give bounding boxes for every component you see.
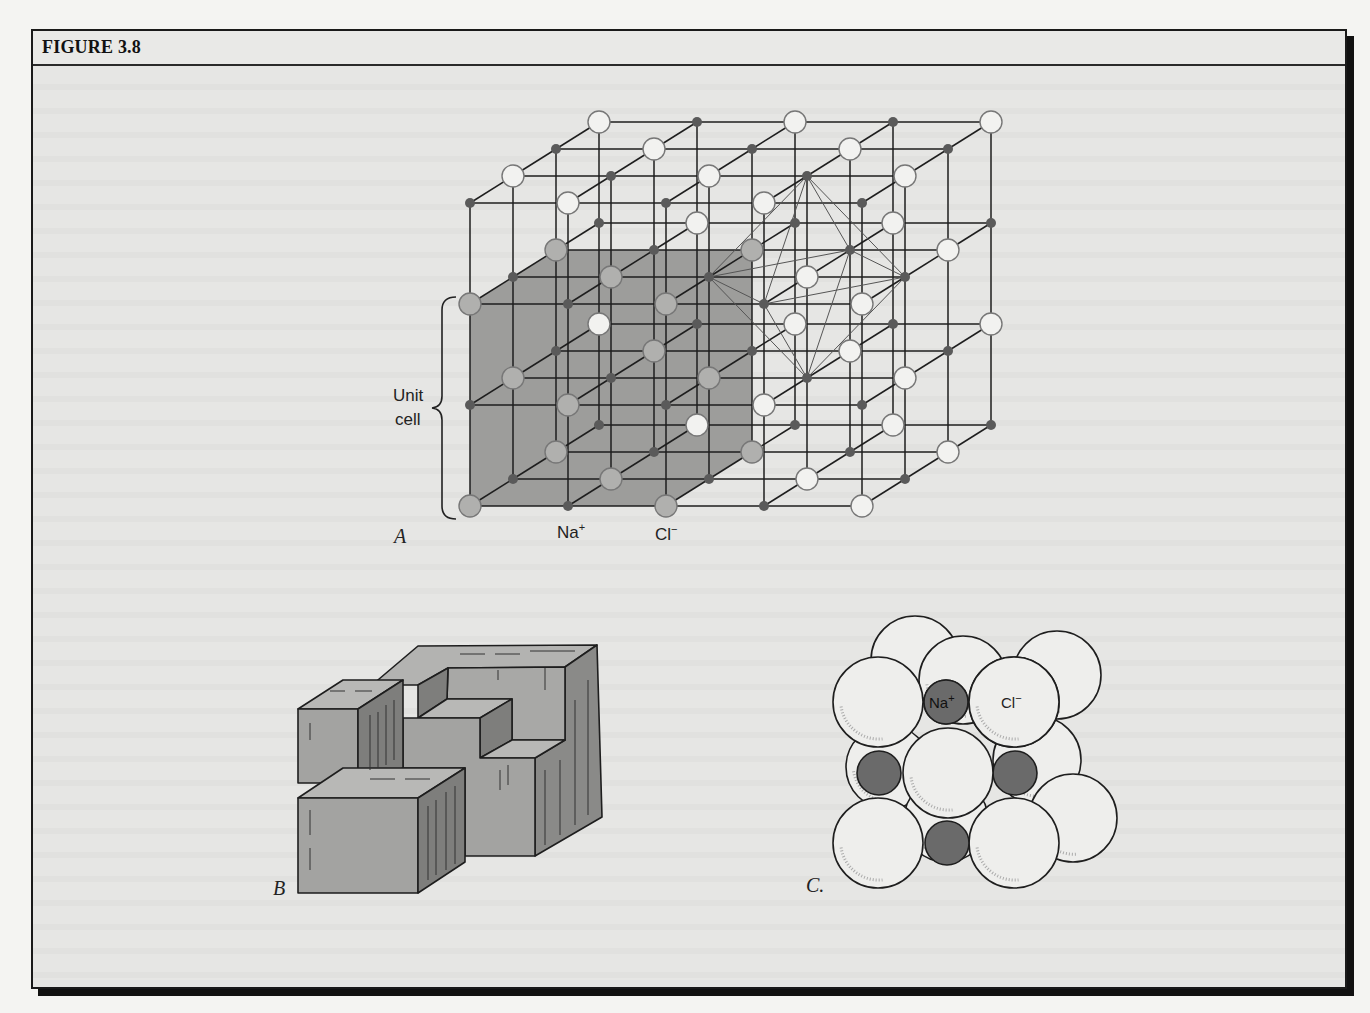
cl-ion <box>698 165 720 187</box>
na-ion <box>606 171 616 181</box>
na-ion <box>986 218 996 228</box>
cl-ion <box>839 340 861 362</box>
cl-ion <box>600 266 622 288</box>
panel-b-letter: B <box>273 877 285 900</box>
na-ion <box>900 474 910 484</box>
cl-ion <box>851 495 873 517</box>
na-ion <box>986 420 996 430</box>
na-ion <box>759 501 769 511</box>
na-ion <box>563 299 573 309</box>
na-ion <box>845 245 855 255</box>
na-ion <box>802 171 812 181</box>
na-ion <box>857 400 867 410</box>
na-ion <box>857 198 867 208</box>
na-ion <box>888 319 898 329</box>
c-cl-label: Cl− <box>1001 692 1022 711</box>
na-ion <box>857 751 901 795</box>
na-charge: + <box>579 521 585 533</box>
crystal-block-model <box>298 645 602 893</box>
na-ion <box>993 751 1037 795</box>
na-ion <box>790 420 800 430</box>
cl-ion <box>686 212 708 234</box>
na-ion <box>594 420 604 430</box>
na-ion <box>925 821 969 865</box>
na-ion <box>802 373 812 383</box>
cl-ion <box>851 293 873 315</box>
na-ion <box>845 447 855 457</box>
cl-ion <box>796 266 818 288</box>
cl-charge: − <box>671 523 677 535</box>
na-ion <box>649 447 659 457</box>
cl-ion <box>655 495 677 517</box>
cl-ion <box>502 165 524 187</box>
na-ion <box>661 400 671 410</box>
cl-ion <box>937 441 959 463</box>
na-ion <box>692 319 702 329</box>
na-ion <box>594 218 604 228</box>
na-ion <box>900 272 910 282</box>
na-ion-label: Na+ <box>557 521 585 543</box>
na-ion <box>551 144 561 154</box>
cl-ion <box>686 414 708 436</box>
c-cl-symbol: Cl <box>1001 694 1015 711</box>
panel-a-letter: A <box>394 525 406 548</box>
na-ion <box>943 144 953 154</box>
cl-ion <box>655 293 677 315</box>
na-ion <box>888 117 898 127</box>
unit-cell-label-line2: cell <box>395 410 421 430</box>
na-ion <box>465 198 475 208</box>
nacl-sphere-packing <box>833 616 1117 888</box>
cl-ion <box>741 239 763 261</box>
na-ion <box>704 474 714 484</box>
cl-ion <box>753 394 775 416</box>
c-na-symbol: Na <box>929 694 948 711</box>
na-ion <box>508 272 518 282</box>
cl-ion <box>796 468 818 490</box>
cl-ion <box>839 138 861 160</box>
cl-ion <box>833 657 923 747</box>
cl-ion <box>643 340 665 362</box>
na-ion <box>465 400 475 410</box>
na-ion <box>790 218 800 228</box>
cl-ion <box>882 212 904 234</box>
na-ion <box>692 117 702 127</box>
cl-ion <box>459 293 481 315</box>
cl-ion <box>969 798 1059 888</box>
cl-ion <box>784 111 806 133</box>
cl-symbol: Cl <box>655 525 671 544</box>
cl-ion <box>894 165 916 187</box>
cl-ion <box>894 367 916 389</box>
cl-ion <box>588 313 610 335</box>
cl-ion <box>833 798 923 888</box>
na-symbol: Na <box>557 523 579 542</box>
nacl-lattice-diagram <box>459 111 1002 517</box>
na-ion <box>759 299 769 309</box>
cl-ion <box>741 441 763 463</box>
cl-ion <box>600 468 622 490</box>
cube2-front <box>298 798 418 893</box>
cl-ion <box>784 313 806 335</box>
na-ion <box>747 144 757 154</box>
c-na-label: Na+ <box>929 692 955 711</box>
cl-ion <box>502 367 524 389</box>
cl-ion <box>643 138 665 160</box>
cl-ion-center <box>903 728 993 818</box>
cl-ion <box>753 192 775 214</box>
c-cl-charge: − <box>1015 692 1021 704</box>
na-ion <box>649 245 659 255</box>
c-na-charge: + <box>948 692 954 704</box>
cl-ion <box>937 239 959 261</box>
cl-ion <box>980 111 1002 133</box>
panel-c-letter: C. <box>806 874 824 897</box>
cl-ion <box>459 495 481 517</box>
cl-ion <box>545 441 567 463</box>
cl-ion <box>557 192 579 214</box>
na-ion <box>551 346 561 356</box>
na-ion <box>606 373 616 383</box>
na-ion <box>563 501 573 511</box>
cl-ion <box>698 367 720 389</box>
na-ion <box>508 474 518 484</box>
cl-ion-label: Cl− <box>655 523 678 545</box>
na-ion <box>704 272 714 282</box>
na-ion <box>747 346 757 356</box>
